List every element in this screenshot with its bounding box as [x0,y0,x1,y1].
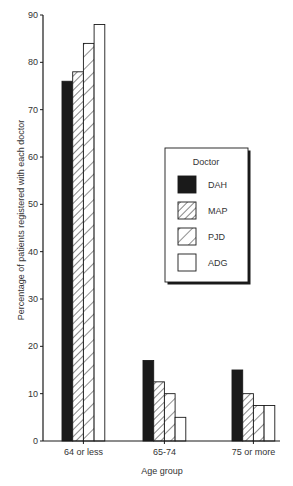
legend-swatch-pjd [178,228,196,245]
bar-pjd [253,406,264,442]
bar-dah [232,370,243,441]
y-tick-label: 70 [28,105,38,115]
y-tick-label: 60 [28,152,38,162]
bar-group [143,361,186,441]
y-axis-title: Percentage of patients registered with e… [16,120,26,321]
bar-dah [62,81,73,441]
bar-pjd [164,394,175,441]
bar-group [232,370,275,441]
y-tick-label: 90 [28,10,38,20]
y-tick-label: 0 [33,436,38,446]
x-category-label: 65-74 [153,447,176,457]
bar-adg [94,24,105,441]
y-tick-label: 30 [28,294,38,304]
legend-swatch-dah [178,176,196,193]
legend-box [165,148,248,282]
x-axis: 64 or less65-7475 or more [43,441,280,457]
y-tick-label: 50 [28,199,38,209]
bar-map [243,394,254,441]
x-category-label: 64 or less [64,447,104,457]
legend-label-pjd: PJD [208,232,226,242]
bar-dah [143,361,154,441]
legend-label-dah: DAH [208,180,227,190]
bar-map [154,382,165,441]
bar-map [73,72,84,441]
legend-swatch-map [178,202,196,219]
legend-label-map: MAP [208,206,228,216]
y-axis: 0102030405060708090 [28,10,43,446]
legend-label-adg: ADG [208,258,228,268]
y-tick-label: 20 [28,341,38,351]
bar-chart: 0102030405060708090 64 or less65-7475 or… [0,0,293,486]
x-axis-title: Age group [141,466,183,476]
y-tick-label: 40 [28,247,38,257]
legend-swatch-adg [178,254,196,271]
x-category-label: 75 or more [232,447,276,457]
legend: DoctorDAHMAPPJDADG [165,148,251,285]
bar-group [62,24,105,441]
legend-title: Doctor [193,157,220,167]
y-tick-label: 10 [28,389,38,399]
bar-pjd [83,43,94,441]
bar-adg [264,406,275,442]
y-tick-label: 80 [28,57,38,67]
bar-adg [175,417,186,441]
